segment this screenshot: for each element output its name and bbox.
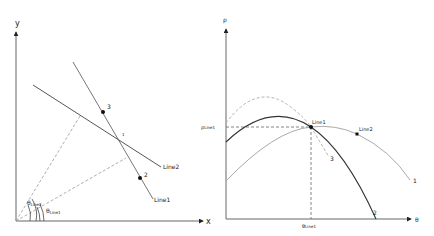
normal-line2-dashed [16, 116, 80, 221]
point-2 [138, 176, 142, 180]
curve-1-label: 1 [413, 177, 417, 184]
hough-space-panel: ρ θ ρLine1 θLine1 1 2 3 Line1 Line2 [201, 16, 419, 229]
theta-line1-axis-label: θLine1 [302, 223, 316, 229]
theta-line2-label: θLine2 [27, 199, 42, 207]
line2-marker-label: Line2 [359, 126, 373, 132]
y-axis-label: y [15, 19, 20, 28]
point-3-label: 3 [107, 103, 111, 110]
image-space-panel: y x Line1 Line2 3 2 1 θLine2 θLine1 [15, 19, 211, 226]
line1-marker-label: Line1 [312, 119, 326, 125]
point-3 [101, 110, 105, 114]
point-1-label: 1 [122, 132, 125, 137]
line2-marker [356, 133, 359, 136]
curve-2-label: 2 [373, 209, 377, 216]
line2-label: Line2 [163, 163, 180, 170]
angle-arc-middle [37, 207, 40, 221]
normal-line1-dashed [16, 158, 126, 221]
line2 [33, 85, 161, 167]
rho-axis-label: ρ [223, 16, 227, 24]
x-axis-label: x [206, 217, 211, 226]
point-2-label: 2 [144, 171, 148, 178]
line1-marker [309, 125, 313, 129]
curve-3-label: 3 [330, 155, 334, 162]
hough-transform-diagram: y x Line1 Line2 3 2 1 θLine2 θLine1 ρ [0, 0, 434, 236]
rho-line1-label: ρLine1 [201, 124, 216, 131]
theta-line1-label: θLine1 [46, 207, 61, 215]
curve-2 [226, 116, 376, 219]
theta-axis-label: θ [415, 216, 419, 223]
curve-1 [226, 126, 410, 181]
line1-label: Line1 [154, 196, 171, 203]
